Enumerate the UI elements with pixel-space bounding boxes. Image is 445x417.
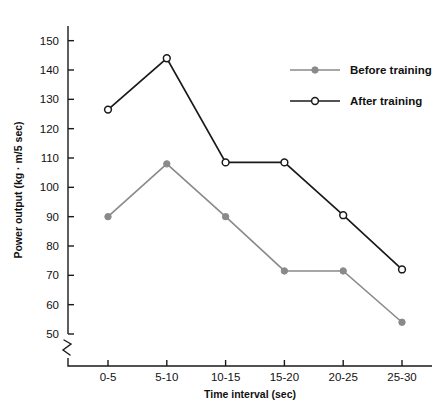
x-tick-label: 15-20 bbox=[270, 371, 299, 383]
x-axis-ticks bbox=[108, 360, 402, 366]
y-axis-break-icon bbox=[63, 340, 71, 355]
series-line bbox=[108, 58, 402, 269]
x-tick-label: 25-30 bbox=[387, 371, 416, 383]
y-tick-label: 150 bbox=[40, 35, 59, 47]
data-point bbox=[399, 266, 406, 273]
y-tick-label: 90 bbox=[46, 211, 59, 223]
series-line bbox=[108, 164, 402, 322]
data-point bbox=[399, 319, 405, 325]
x-axis-line bbox=[68, 358, 432, 366]
y-tick-label: 110 bbox=[41, 152, 59, 164]
data-point bbox=[281, 159, 288, 166]
y-tick-label: 120 bbox=[40, 123, 59, 135]
legend-label: After training bbox=[350, 95, 422, 107]
x-axis-title: Time interval (sec) bbox=[204, 388, 296, 400]
data-point bbox=[105, 213, 111, 219]
y-axis-ticks bbox=[68, 41, 74, 334]
chart-legend: Before trainingAfter training bbox=[290, 64, 432, 107]
data-point bbox=[164, 161, 170, 167]
y-tick-label: 70 bbox=[46, 269, 59, 281]
legend-label: Before training bbox=[350, 64, 432, 76]
y-tick-label: 130 bbox=[40, 93, 59, 105]
y-tick-label: 100 bbox=[40, 181, 59, 193]
x-axis-tick-labels: 0-55-1010-1515-2020-2525-30 bbox=[100, 371, 417, 383]
legend-marker-icon bbox=[312, 67, 318, 73]
legend-marker-icon bbox=[312, 98, 319, 105]
power-output-line-chart: 5060708090100110120130140150 0-55-1010-1… bbox=[0, 0, 445, 417]
data-point bbox=[340, 268, 346, 274]
y-tick-label: 140 bbox=[40, 64, 59, 76]
x-tick-label: 5-10 bbox=[155, 371, 178, 383]
data-point bbox=[340, 212, 347, 219]
y-axis-tick-labels: 5060708090100110120130140150 bbox=[40, 35, 59, 340]
data-point bbox=[222, 213, 228, 219]
x-tick-label: 20-25 bbox=[328, 371, 357, 383]
data-point bbox=[163, 55, 170, 62]
x-tick-label: 0-5 bbox=[100, 371, 117, 383]
data-point bbox=[281, 268, 287, 274]
y-tick-label: 60 bbox=[46, 299, 59, 311]
series-before-training bbox=[105, 161, 405, 326]
chart-svg: 5060708090100110120130140150 0-55-1010-1… bbox=[0, 0, 445, 417]
y-tick-label: 50 bbox=[46, 328, 59, 340]
data-point bbox=[105, 106, 112, 113]
legend-item-after-training: After training bbox=[290, 95, 422, 107]
y-tick-label: 80 bbox=[46, 240, 59, 252]
series-after-training bbox=[105, 55, 406, 273]
legend-item-before-training: Before training bbox=[290, 64, 432, 76]
x-tick-label: 10-15 bbox=[211, 371, 240, 383]
y-axis-title: Power output (kg · m/5 sec) bbox=[12, 121, 24, 258]
data-point bbox=[222, 159, 229, 166]
